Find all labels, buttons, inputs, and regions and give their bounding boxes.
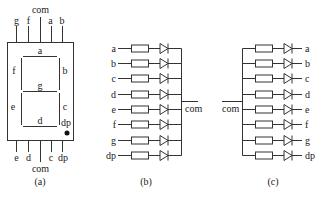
- panel-c-label-e: e: [305, 104, 310, 115]
- panel-b-row-d: d: [111, 89, 182, 100]
- panel-b-resistor-e: [132, 106, 149, 113]
- panel-c-label-g: g: [305, 135, 310, 146]
- panel-c-a-diode-icon: [284, 44, 292, 54]
- bottom-pin-label-dp: dp: [58, 152, 68, 163]
- panel-b-d-diode-icon: [160, 90, 168, 100]
- panel-b-e-diode-icon: [160, 105, 168, 115]
- panel-c-row-c: c: [243, 73, 311, 84]
- panel-b-resistor-c: [132, 75, 149, 82]
- panel-b-resistor-g: [132, 137, 149, 144]
- panel-c-row-e: e: [243, 104, 311, 115]
- panel-b-label-d: d: [111, 89, 116, 100]
- panel-b-row-e: e: [112, 104, 182, 115]
- figure-canvas: com g f a b a f b g e c d dp e d com c d…: [0, 0, 321, 198]
- panel-b-label-b: b: [111, 58, 116, 69]
- panel-b-row-b: b: [111, 58, 182, 69]
- panel-c-dp-diode-icon: [284, 151, 292, 161]
- segment-label-a: a: [38, 45, 43, 56]
- caption-c: (c): [267, 176, 278, 188]
- panel-b-resistor-d: [132, 91, 149, 98]
- panel-c-b-diode-icon: [284, 59, 292, 69]
- bottom-pin-label-d: d: [26, 152, 31, 163]
- panel-c-resistor-f: [256, 121, 273, 128]
- caption-a: (a): [34, 176, 45, 188]
- panel-c-d-diode-icon: [284, 90, 292, 100]
- panel-b-b-diode-icon: [160, 59, 168, 69]
- panel-c-circuit: abcdefgdpcom(c): [222, 43, 315, 188]
- panel-c-row-dp: dp: [243, 150, 316, 161]
- bottom-pin-label-e: e: [14, 152, 19, 163]
- panel-b-label-f: f: [113, 119, 117, 130]
- segment-label-b: b: [63, 65, 68, 76]
- panel-c-label-f: f: [305, 119, 309, 130]
- panel-b-resistor-a: [132, 45, 149, 52]
- segment-label-dp: dp: [61, 117, 71, 128]
- panel-b-a-diode-icon: [160, 44, 168, 54]
- top-pin-label-com: com: [32, 4, 49, 15]
- panel-c-label-c: c: [305, 73, 310, 84]
- top-pin-label-b: b: [60, 15, 65, 26]
- panel-b-common-label: com: [185, 103, 202, 114]
- panel-c-resistor-a: [256, 45, 273, 52]
- panel-c-f-diode-icon: [284, 120, 292, 130]
- panel-b-g-diode-icon: [160, 136, 168, 146]
- panel-c-g-diode-icon: [284, 136, 292, 146]
- panel-b-label-dp: dp: [106, 150, 116, 161]
- panel-c-resistor-dp: [256, 152, 273, 159]
- segment-label-f: f: [12, 65, 16, 76]
- panel-c-resistor-d: [256, 91, 273, 98]
- panel-c-resistor-g: [256, 137, 273, 144]
- panel-b-row-a: a: [112, 43, 182, 54]
- panel-b-circuit: abcdefgdpcom(b): [106, 43, 202, 188]
- panel-c-label-b: b: [305, 58, 310, 69]
- top-pin-label-f: f: [27, 15, 31, 26]
- panel-c-e-diode-icon: [284, 105, 292, 115]
- panel-b-row-g: g: [111, 135, 182, 146]
- panel-b-resistor-dp: [132, 152, 149, 159]
- panel-c-resistor-c: [256, 75, 273, 82]
- panel-c-row-f: f: [243, 119, 310, 130]
- panel-c-row-d: d: [243, 89, 311, 100]
- bottom-pin-label-com: com: [32, 163, 49, 174]
- segment-label-e: e: [11, 101, 16, 112]
- panel-b-f-diode-icon: [160, 120, 168, 130]
- panel-b-label-c: c: [112, 73, 117, 84]
- panel-c-resistor-e: [256, 106, 273, 113]
- panel-b-resistor-b: [132, 60, 149, 67]
- segment-label-d: d: [38, 115, 43, 126]
- segment-label-g: g: [38, 80, 43, 91]
- panel-b-c-diode-icon: [160, 74, 168, 84]
- panel-c-row-g: g: [243, 135, 311, 146]
- panel-c-row-b: b: [243, 58, 311, 69]
- top-pin-label-g: g: [14, 15, 19, 26]
- segment-label-c: c: [63, 101, 68, 112]
- top-pin-label-a: a: [48, 15, 53, 26]
- caption-b: (b): [140, 176, 152, 188]
- panel-c-c-diode-icon: [284, 74, 292, 84]
- panel-b-label-g: g: [111, 135, 116, 146]
- dp-dot: [65, 131, 70, 136]
- panel-c-resistor-b: [256, 60, 273, 67]
- panel-b-resistor-f: [132, 121, 149, 128]
- panel-c-label-dp: dp: [305, 150, 315, 161]
- panel-c-common-label: com: [222, 103, 239, 114]
- panel-b-row-dp: dp: [106, 150, 182, 161]
- bottom-pin-label-c: c: [49, 152, 54, 163]
- panel-c-label-a: a: [305, 43, 310, 54]
- panel-b-label-e: e: [112, 104, 117, 115]
- panel-b-dp-diode-icon: [160, 151, 168, 161]
- panel-c-row-a: a: [243, 43, 311, 54]
- panel-b-label-a: a: [112, 43, 117, 54]
- panel-b-row-c: c: [112, 73, 182, 84]
- panel-b-row-f: f: [113, 119, 182, 130]
- panel-c-label-d: d: [305, 89, 310, 100]
